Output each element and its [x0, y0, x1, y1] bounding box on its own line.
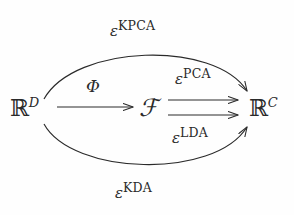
edge-label-lda-base: ε — [172, 129, 180, 147]
node-feature-base: ℱ — [139, 94, 158, 122]
edge-label-lda-superscript: LDA — [180, 125, 208, 140]
node-codomain-superscript: C — [268, 95, 277, 110]
edge-label-lda: εLDA — [172, 127, 208, 146]
edge-label-phi-base: Φ — [86, 76, 100, 96]
edge-label-kda-base: ε — [115, 184, 123, 202]
edge-label-pca: εPCA — [175, 68, 211, 87]
edge-label-pca-base: ε — [175, 70, 183, 88]
edge-kpca-arc — [44, 55, 247, 99]
edge-label-phi: Φ — [86, 78, 100, 95]
node-feature: ℱ — [139, 96, 158, 120]
edge-label-kda: εKDA — [115, 182, 152, 201]
node-codomain-base: ℝ — [249, 95, 268, 121]
edge-label-kpca-superscript: KPCA — [118, 18, 155, 33]
edge-label-pca-superscript: PCA — [183, 66, 211, 81]
node-domain-superscript: D — [29, 95, 39, 110]
edge-label-kpca-base: ε — [110, 22, 118, 40]
edge-label-kda-superscript: KDA — [123, 180, 152, 195]
edge-label-kpca: εKPCA — [110, 20, 155, 39]
node-domain-base: ℝ — [10, 95, 29, 121]
node-codomain: ℝC — [249, 96, 277, 120]
node-domain: ℝD — [10, 96, 39, 120]
edge-kda-arc — [44, 124, 247, 165]
math-diagram: ℝD ℱ ℝC Φ εPCA εLDA εKPCA εKDA — [0, 0, 294, 215]
